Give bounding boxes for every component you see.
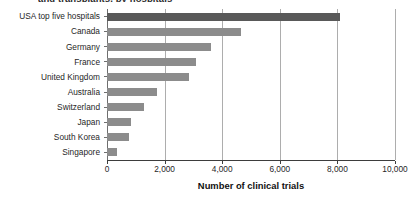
bar: [107, 28, 241, 36]
category-label: Australia: [0, 84, 104, 99]
bar-row: [107, 69, 395, 84]
x-tick-label: 4,000: [212, 165, 233, 173]
bar-row: [107, 145, 395, 160]
category-label: France: [0, 54, 104, 69]
x-tick-label: 0: [105, 165, 110, 173]
category-label: Canada: [0, 24, 104, 39]
category-label: United Kingdom: [0, 69, 104, 84]
bar-row: [107, 100, 395, 115]
bar-row: [107, 9, 395, 24]
bar: [107, 13, 340, 21]
chart-title-truncated: and transplants, by hospitals: [38, 0, 208, 2]
bar-row: [107, 39, 395, 54]
category-label: Switzerland: [0, 100, 104, 115]
category-label: South Korea: [0, 130, 104, 145]
bar: [107, 88, 157, 96]
x-tick-label: 8,000: [327, 165, 348, 173]
bar-chart-figure: and transplants, by hospitals USA top fi…: [0, 0, 415, 197]
category-axis: USA top five hospitalsCanadaGermanyFranc…: [0, 9, 104, 160]
bar: [107, 148, 117, 156]
category-label: Singapore: [0, 145, 104, 160]
bar: [107, 73, 189, 81]
category-tick: [104, 76, 107, 77]
category-tick: [104, 122, 107, 123]
x-axis-title: Number of clinical trials: [107, 180, 395, 191]
category-label: Germany: [0, 39, 104, 54]
gridline-10000: [395, 9, 396, 160]
bar-row: [107, 115, 395, 130]
x-tick-label: 10,000: [382, 165, 407, 173]
category-tick: [104, 46, 107, 47]
category-tick: [104, 92, 107, 93]
bar: [107, 133, 129, 141]
bar: [107, 103, 144, 111]
category-tick: [104, 16, 107, 17]
bar-row: [107, 24, 395, 39]
category-tick: [104, 152, 107, 153]
category-label: USA top five hospitals: [0, 9, 104, 24]
x-axis-line: [107, 160, 395, 161]
bar-series: [107, 9, 395, 160]
plot-area: [107, 9, 395, 160]
category-tick: [104, 31, 107, 32]
category-tick: [104, 61, 107, 62]
bar: [107, 118, 131, 126]
x-tick-label: 2,000: [154, 165, 175, 173]
x-tick-label: 6,000: [269, 165, 290, 173]
bar: [107, 58, 196, 66]
category-tick: [104, 107, 107, 108]
bar-row: [107, 130, 395, 145]
category-label: Japan: [0, 115, 104, 130]
category-tick: [104, 137, 107, 138]
bar-row: [107, 84, 395, 99]
bar-row: [107, 54, 395, 69]
bar: [107, 43, 211, 51]
